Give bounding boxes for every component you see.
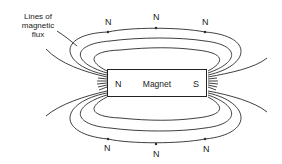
field-line-bottom-outer (70, 93, 241, 143)
marker-top-left: N (105, 18, 112, 27)
label-line-3: flux (18, 30, 58, 39)
lines-of-magnetic-flux-label: Lines of magnetic flux (18, 12, 58, 39)
marker-bottom-left: N (104, 144, 111, 153)
field-line-top-outer (70, 28, 241, 75)
marker-dot (155, 27, 157, 29)
south-pole-label: S (193, 79, 199, 89)
label-line-2: magnetic (18, 21, 58, 30)
marker-top-right: N (202, 18, 209, 27)
marker-top-center: N (153, 13, 160, 22)
marker-dot (155, 143, 157, 145)
field-line-top-inner (94, 48, 220, 71)
field-line-bottom-middle (80, 95, 231, 131)
label-leader-line (57, 31, 77, 46)
marker-dot (204, 31, 206, 33)
marker-dot (107, 31, 109, 33)
bar-magnet: N Magnet S (107, 69, 207, 97)
marker-bottom-right: N (203, 145, 210, 154)
marker-dot (107, 138, 109, 140)
marker-bottom-center: N (153, 150, 160, 159)
marker-dot (204, 138, 206, 140)
magnet-label: Magnet (108, 79, 206, 89)
field-line-top-middle (80, 38, 231, 73)
field-line-bottom-inner (94, 97, 220, 120)
label-line-1: Lines of (18, 12, 58, 21)
